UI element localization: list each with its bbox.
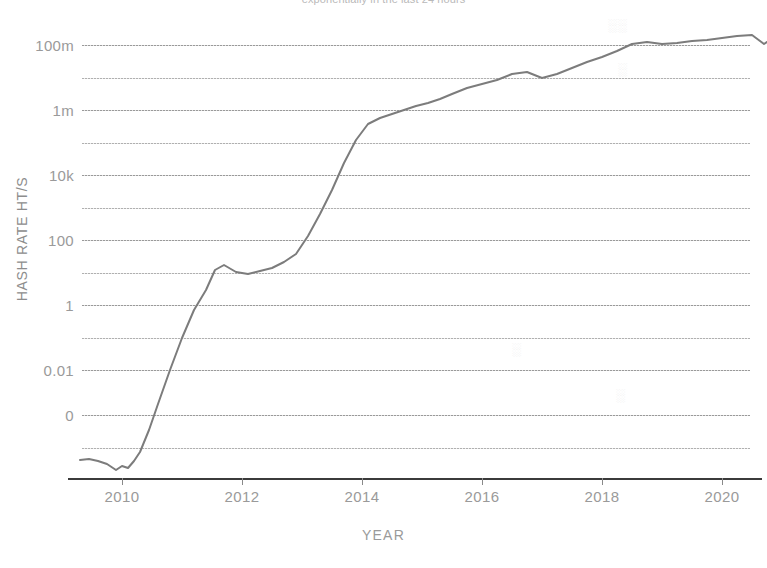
gridline-major	[82, 110, 750, 111]
x-axis-line	[68, 478, 762, 480]
gridline-major	[82, 45, 750, 46]
gridline-minor	[82, 143, 750, 144]
y-axis-tick-label: 100m	[12, 37, 74, 54]
x-axis-tick-label: 2012	[207, 488, 277, 505]
x-axis-tick-label: 2020	[687, 488, 757, 505]
gridline-major	[82, 415, 750, 416]
gridline-minor	[82, 338, 750, 339]
x-axis-tick-mark	[602, 478, 603, 485]
x-axis-tick-label: 2016	[447, 488, 517, 505]
x-axis-tick-mark	[362, 478, 363, 485]
x-axis-title: YEAR	[0, 527, 767, 543]
y-axis-tick-label: 100	[12, 232, 74, 249]
gridline-major	[82, 305, 750, 306]
y-axis-tick-label: 1m	[12, 102, 74, 119]
gridline-major	[82, 175, 750, 176]
y-axis-tick-label: 10k	[12, 167, 74, 184]
x-axis-tick-label: 2014	[327, 488, 397, 505]
x-axis-tick-mark	[722, 478, 723, 485]
x-axis-tick-mark	[482, 478, 483, 485]
plot-area	[82, 20, 750, 478]
gridline-minor	[82, 273, 750, 274]
y-axis-tick-labels: 100m1m10k10010.010	[8, 20, 74, 478]
gridline-minor	[82, 448, 750, 449]
x-axis-tick-label: 2018	[567, 488, 637, 505]
gridline-major	[82, 370, 750, 371]
chart-root: exponentially in the last 24 hours HASH …	[0, 0, 767, 568]
y-axis-tick-label: 0	[12, 407, 74, 424]
gridline-minor	[82, 78, 750, 79]
chart-title: exponentially in the last 24 hours	[0, 0, 767, 6]
y-axis-tick-label: 1	[12, 297, 74, 314]
x-axis-tick-mark	[242, 478, 243, 485]
gridline-major	[82, 240, 750, 241]
gridline-minor	[82, 208, 750, 209]
x-axis-tick-label: 2010	[87, 488, 157, 505]
y-axis-tick-label: 0.01	[12, 362, 74, 379]
x-axis-tick-mark	[122, 478, 123, 485]
